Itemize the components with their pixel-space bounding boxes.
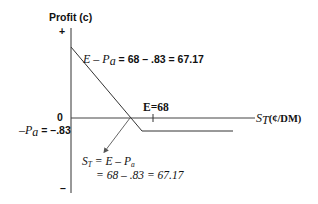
sub-a-2: a [131, 160, 135, 169]
x-axis-label: ST(¢/DM) [256, 112, 301, 126]
premium-value: = –.83 [38, 124, 70, 136]
breakeven-line-2: = 68 – .83 = 67.17 [96, 170, 183, 182]
premium-label: –Pa = –.83 [19, 124, 71, 138]
breakeven-eq: = E – P [92, 155, 131, 167]
minus-sign: – [90, 52, 102, 66]
max-profit-value: = 68 – .83 = 67.17 [116, 53, 204, 65]
premium-var: –P [19, 123, 32, 137]
put-option-profit-diagram: Profit (c) + – 0 –Pa = –.83 E – Pa = 68 … [0, 0, 318, 204]
plus-marker: + [59, 26, 65, 37]
strike-label: E=68 [143, 102, 169, 114]
y-axis-title: Profit (c) [49, 12, 92, 23]
max-profit-annotation: E – Pa = 68 – .83 = 67.17 [83, 53, 204, 67]
x-sub: T [262, 113, 269, 127]
breakeven-line-1: ST = E – Pa [82, 156, 135, 169]
var-p: P [102, 52, 109, 66]
zero-label: 0 [57, 112, 63, 123]
minus-marker: – [60, 183, 66, 194]
x-unit: (¢/DM) [269, 113, 302, 124]
breakeven-arrow [105, 118, 130, 151]
